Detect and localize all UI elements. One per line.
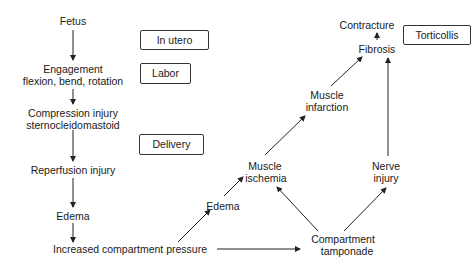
arrow-edema-to-ischemia (224, 177, 243, 196)
node-compression-line2: sternocleidomastoid (26, 119, 119, 131)
node-compartment-tamponade-line1: Compartment (311, 233, 375, 245)
node-fibrosis: Fibrosis (359, 43, 396, 55)
node-engagement-line2: flexion, bend, rotation (23, 75, 123, 87)
node-engagement-line1: Engagement (43, 63, 103, 75)
node-edema-mid: Edema (206, 200, 239, 212)
arrow-tamponade-to-nerve (344, 188, 386, 231)
torticollis-pathway-diagram: In utero Labor Delivery Torticollis Fetu… (0, 0, 474, 271)
node-edema-left: Edema (56, 210, 89, 222)
arrow-tamponade-to-ischemia (277, 187, 318, 231)
node-muscle-ischemia-line1: Muscle (248, 160, 281, 172)
arrow-infarction-to-fibrosis (331, 57, 362, 86)
stage-box-labor: Labor (140, 63, 191, 84)
node-muscle-infarction-line1: Muscle (310, 89, 343, 101)
node-fetus: Fetus (60, 15, 86, 27)
stage-box-torticollis: Torticollis (403, 25, 471, 45)
node-muscle-infarction-line2: infarction (306, 101, 349, 113)
node-nerve-injury-line1: Nerve (372, 160, 400, 172)
node-nerve-injury-line2: injury (373, 172, 398, 184)
node-muscle-ischemia-line2: ischemia (245, 172, 286, 184)
node-compression-line1: Compression injury (28, 107, 118, 119)
node-reperfusion-injury: Reperfusion injury (31, 164, 116, 176)
node-compartment-tamponade-line2: tamponade (321, 245, 374, 257)
arrow-ischemia-to-infarction (265, 116, 305, 155)
arrow-pressure-to-edema (178, 210, 210, 242)
stage-box-delivery: Delivery (139, 134, 204, 155)
stage-box-in-utero: In utero (140, 30, 209, 50)
node-increased-pressure: Increased compartment pressure (53, 243, 207, 255)
node-contracture: Contracture (340, 19, 395, 31)
